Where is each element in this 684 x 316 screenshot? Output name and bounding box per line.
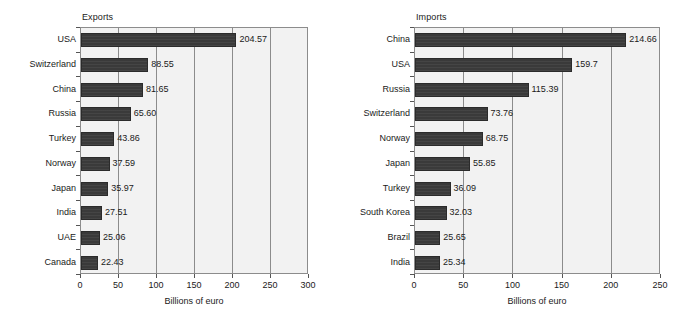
bar-row [81, 107, 307, 121]
y-axis-tick [76, 27, 80, 28]
bar-value-label: 81.65 [146, 84, 169, 94]
y-axis-tick [76, 151, 80, 152]
x-axis-tick-label: 200 [603, 280, 618, 290]
category-label: Switzerland [363, 108, 410, 118]
category-label: South Korea [360, 207, 410, 217]
category-label: USA [57, 34, 76, 44]
bar-row [415, 58, 659, 72]
bar[interactable] [415, 256, 440, 270]
y-axis-tick [410, 76, 414, 77]
bar[interactable] [81, 58, 148, 72]
bar-row [81, 58, 307, 72]
bar[interactable] [415, 33, 626, 47]
chart-title-imports: Imports [416, 12, 447, 22]
bar-row [415, 132, 659, 146]
category-label: Brazil [387, 232, 410, 242]
bar[interactable] [415, 58, 572, 72]
y-axis-tick [410, 126, 414, 127]
x-axis-tick [562, 274, 563, 278]
bar-value-label: 36.09 [454, 183, 477, 193]
x-axis-tick [80, 274, 81, 278]
category-label: Switzerland [29, 59, 76, 69]
y-axis-tick [410, 101, 414, 102]
y-axis-tick [76, 126, 80, 127]
bar-value-label: 25.06 [103, 232, 126, 242]
bar-row [415, 157, 659, 171]
x-axis-tick [660, 274, 661, 278]
x-axis-tick-label: 50 [113, 280, 123, 290]
x-axis-tick [232, 274, 233, 278]
bar[interactable] [81, 206, 102, 220]
bar-value-label: 35.97 [111, 183, 134, 193]
category-label: India [390, 257, 410, 267]
bar-row [415, 33, 659, 47]
bar[interactable] [81, 132, 114, 146]
category-label: China [52, 84, 76, 94]
bar-value-label: 204.57 [239, 34, 267, 44]
x-axis-tick-label: 200 [224, 280, 239, 290]
category-label: Russia [48, 108, 76, 118]
category-label: Russia [382, 84, 410, 94]
chart-panel-imports: Imports 214.66China159.7USA115.39Russia7… [342, 0, 684, 316]
bar-value-label: 88.55 [151, 59, 174, 69]
category-label: Japan [385, 158, 410, 168]
category-label: Turkey [49, 133, 76, 143]
bar-row [81, 132, 307, 146]
bar[interactable] [415, 83, 529, 97]
x-axis-tick-label: 150 [186, 280, 201, 290]
bar[interactable] [81, 33, 236, 47]
x-axis-tick [194, 274, 195, 278]
x-axis-tick-label: 150 [554, 280, 569, 290]
bar-value-label: 65.60 [134, 108, 157, 118]
category-label: Turkey [383, 183, 410, 193]
bar-value-label: 37.59 [113, 158, 136, 168]
x-axis-tick [308, 274, 309, 278]
bar-value-label: 43.86 [117, 133, 140, 143]
bar[interactable] [81, 182, 108, 196]
bar[interactable] [81, 231, 100, 245]
y-axis-tick [76, 200, 80, 201]
bar-value-label: 115.39 [532, 84, 559, 94]
x-axis-tick-label: 300 [300, 280, 315, 290]
bar[interactable] [415, 206, 447, 220]
bar-value-label: 32.03 [450, 207, 473, 217]
y-axis-tick [76, 52, 80, 53]
y-axis-tick [76, 101, 80, 102]
y-axis-tick [76, 249, 80, 250]
bar[interactable] [415, 107, 488, 121]
chart-title-exports: Exports [82, 12, 113, 22]
bar[interactable] [81, 157, 110, 171]
bar-value-label: 25.34 [443, 257, 466, 267]
bar[interactable] [415, 231, 440, 245]
category-label: Canada [44, 257, 76, 267]
x-axis-tick-label: 0 [411, 280, 416, 290]
y-axis-tick [76, 225, 80, 226]
y-axis-tick [410, 52, 414, 53]
category-label: India [56, 207, 76, 217]
bar[interactable] [415, 157, 470, 171]
y-axis-tick [410, 200, 414, 201]
y-axis-tick [410, 151, 414, 152]
bar-row [81, 33, 307, 47]
bar-value-label: 73.76 [491, 108, 514, 118]
bar[interactable] [81, 256, 98, 270]
category-label: Norway [45, 158, 76, 168]
x-axis-tick [414, 274, 415, 278]
x-axis-tick [512, 274, 513, 278]
bar-row [81, 83, 307, 97]
bar[interactable] [415, 182, 451, 196]
x-axis-tick [156, 274, 157, 278]
x-axis-tick-label: 100 [505, 280, 520, 290]
category-label: Japan [51, 183, 76, 193]
x-axis-tick [118, 274, 119, 278]
category-label: Norway [379, 133, 410, 143]
y-axis-tick [410, 249, 414, 250]
chart-panel-exports: Exports 204.57USA88.55Switzerland81.65Ch… [0, 0, 342, 316]
bar[interactable] [81, 83, 143, 97]
bar[interactable] [415, 132, 483, 146]
category-label: USA [391, 59, 410, 69]
y-axis-tick [410, 175, 414, 176]
x-axis-tick [611, 274, 612, 278]
bar[interactable] [81, 107, 131, 121]
bar-value-label: 25.65 [443, 232, 466, 242]
